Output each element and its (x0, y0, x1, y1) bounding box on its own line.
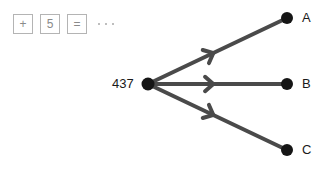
graph-svg (0, 0, 333, 172)
node-a[interactable] (281, 12, 293, 24)
edge-root-to-a (148, 18, 287, 84)
node-label-root: 437 (112, 77, 134, 90)
node-b[interactable] (281, 78, 293, 90)
edge-group (148, 18, 287, 150)
edge-root-to-c (148, 84, 287, 150)
node-label-a: A (302, 11, 311, 24)
node-label-b: B (302, 77, 311, 90)
node-c[interactable] (281, 144, 293, 156)
node-label-c: C (302, 143, 311, 156)
diagram-canvas: + 5 = 437 A (0, 0, 333, 172)
node-root[interactable] (142, 78, 155, 91)
